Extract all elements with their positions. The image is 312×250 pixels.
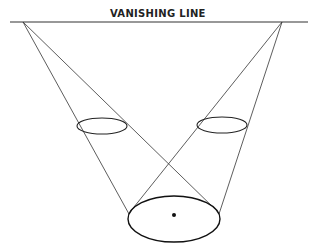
left-vp-line-outer [23, 22, 129, 214]
large-ellipse-bottom [128, 196, 220, 242]
small-ellipse-right [197, 117, 247, 133]
small-ellipse-left [77, 118, 127, 134]
perspective-diagram: VANISHING LINE [0, 0, 312, 250]
right-vp-line-outer [219, 22, 282, 214]
vanishing-line-label: VANISHING LINE [110, 8, 206, 19]
left-vp-line-inner [23, 22, 218, 212]
center-dot [172, 213, 176, 217]
right-vp-line-inner [130, 22, 282, 212]
